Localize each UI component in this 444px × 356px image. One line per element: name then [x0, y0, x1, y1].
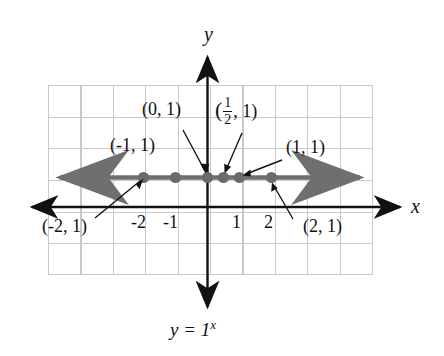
x-tick-label-neg2: -2	[131, 213, 146, 231]
point-label-neg1-1: (-1, 1)	[110, 136, 155, 154]
equation-caption: y = 1x	[170, 318, 216, 339]
point-label-neg2-1: (-2, 1)	[42, 217, 87, 235]
data-point-0-1	[202, 172, 213, 183]
x-axis-label: x	[411, 196, 420, 216]
data-point-neg1-1	[170, 172, 181, 183]
data-point-2-1	[266, 172, 277, 183]
graph-figure: y x -2 -1 1 2 (-2, 1) (-1, 1) (0, 1) (1,…	[0, 0, 444, 356]
leader-arrowhead-half-1	[224, 164, 231, 174]
leader-half-1	[226, 133, 242, 170]
data-point-half-1	[218, 172, 229, 183]
point-label-1-1: (1, 1)	[286, 138, 325, 156]
leader-2-1	[274, 186, 293, 219]
fraction-denominator: 2	[223, 113, 232, 127]
coordinate-plane-svg	[0, 0, 444, 356]
x-tick-label-2: 2	[264, 213, 273, 231]
equation-exponent: x	[210, 317, 216, 332]
point-label-2-1: (2, 1)	[303, 217, 342, 235]
leader-1-1	[246, 160, 282, 174]
fraction-open-paren: (	[215, 97, 222, 122]
data-point-1-1	[234, 172, 245, 183]
point-label-half-1: (12, 1)	[215, 97, 257, 129]
fraction-numerator: 1	[223, 96, 232, 110]
leader-arrowhead-1-1	[243, 169, 251, 176]
x-tick-label-neg1: -1	[163, 213, 178, 231]
point-label-0-1: (0, 1)	[142, 100, 181, 118]
fraction-label-rest: , 1)	[233, 101, 257, 121]
x-tick-label-1: 1	[232, 213, 241, 231]
one-half-fraction: 12	[223, 96, 232, 128]
y-axis-label: y	[204, 24, 213, 44]
equation-base: y = 1	[170, 319, 210, 340]
